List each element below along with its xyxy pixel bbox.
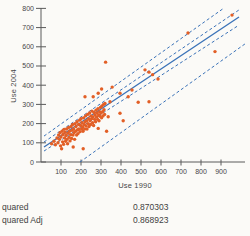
y-tick-label: 600 [22, 43, 34, 50]
scatter-point [147, 70, 150, 73]
scatter-point [100, 87, 103, 90]
scatter-point [73, 138, 76, 141]
x-tick-label: 500 [135, 168, 147, 175]
x-tick-label: 600 [155, 168, 167, 175]
scatter-point [103, 102, 106, 105]
rsquared-adj-value: 0.868923 [133, 215, 168, 225]
scatter-point [213, 50, 216, 53]
scatter-point [92, 124, 95, 127]
y-tick-label: 200 [22, 120, 34, 127]
y-axis-title: Use 2004 [9, 69, 18, 103]
scatter-point [97, 119, 100, 122]
scatter-point [104, 60, 107, 63]
rsquared-row: quared 0.870303 [0, 202, 250, 214]
chart-canvas: 1002003004005006007008009000100200300400… [0, 0, 250, 196]
scatter-point [63, 131, 66, 134]
scatter-point [72, 145, 75, 148]
scatter-point [66, 142, 69, 145]
rsquared-value: 0.870303 [133, 202, 168, 212]
scatter-point [107, 115, 110, 118]
confid-fit-upper-line [44, 10, 239, 142]
rsquared-adj-label: quared Adj [2, 215, 43, 225]
scatter-point [147, 100, 150, 103]
y-tick-label: 700 [22, 24, 34, 31]
scatter-point [97, 92, 100, 95]
x-tick-label: 200 [75, 168, 87, 175]
scatter-point [137, 101, 140, 104]
scatter-point [97, 127, 100, 130]
x-tick-label: 400 [115, 168, 127, 175]
scatter-point [83, 95, 86, 98]
scatter-point [111, 85, 114, 88]
rsquared-adj-row: quared Adj 0.868923 [0, 215, 250, 227]
scatter-point [62, 143, 65, 146]
x-axis-title: Use 1990 [85, 181, 185, 190]
confid-indiv-upper-line [44, 8, 224, 136]
scatter-point [102, 108, 105, 111]
scatter-point [59, 144, 62, 147]
scatter-point [92, 95, 95, 98]
scatter-point [108, 100, 111, 103]
scatter-point [52, 140, 55, 143]
scatter-point [230, 13, 233, 16]
x-tick-label: 900 [215, 168, 227, 175]
scatter-point [118, 112, 121, 115]
y-tick-label: 300 [22, 101, 34, 108]
tick-labels: 1002003004005006007008009000100200300400… [22, 5, 227, 175]
y-tick-label: 400 [22, 82, 34, 89]
scatter-point [130, 88, 133, 91]
scatter-point [105, 130, 108, 133]
scatter-point [103, 113, 106, 116]
scatter-point [151, 73, 154, 76]
x-tick-label: 700 [175, 168, 187, 175]
scatter-point [143, 68, 146, 71]
scatter-point [118, 92, 121, 95]
y-tick-label: 0 [30, 159, 34, 166]
scatter-point [186, 31, 189, 34]
scatter-point [60, 147, 63, 150]
scatter-plot: 1002003004005006007008009000100200300400… [0, 0, 250, 196]
y-tick-label: 100 [22, 139, 34, 146]
rsquared-label: quared [2, 202, 28, 212]
scatter-point [127, 95, 130, 98]
axes [36, 8, 245, 166]
scatter-point [91, 121, 94, 124]
y-tick-label: 500 [22, 62, 34, 69]
scatter-point [70, 137, 73, 140]
scatter-point [156, 77, 159, 80]
scatter-point [82, 147, 85, 150]
y-tick-label: 800 [22, 5, 34, 12]
scatter-point [50, 142, 53, 145]
scatter-point [122, 119, 125, 122]
scatter-point [56, 141, 59, 144]
x-tick-label: 300 [95, 168, 107, 175]
x-tick-label: 800 [195, 168, 207, 175]
x-tick-label: 100 [55, 168, 67, 175]
